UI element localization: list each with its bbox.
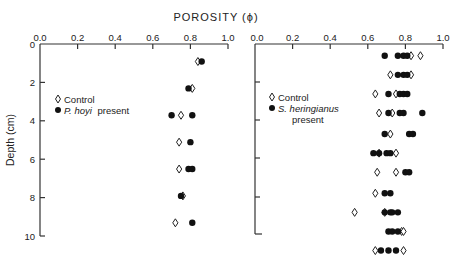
species-present-data-point (395, 53, 401, 59)
x-tick-label: 0.8 (184, 32, 197, 43)
figure-title: POROSITY (ϕ) (173, 11, 258, 23)
x-tick-label: 0.2 (286, 32, 299, 43)
species-present-data-point (189, 220, 195, 226)
filled-circle-icon (269, 105, 275, 111)
species-present-data-point (382, 190, 388, 196)
control-data-point (375, 168, 380, 176)
right-panel: 0.0 0.2 0.4 0.6 0.8 1.0 Control S. herin… (250, 32, 449, 255)
left-x-axis (40, 44, 228, 49)
species-present-data-point (400, 110, 406, 116)
control-data-point (177, 138, 182, 146)
species-present-data-point (393, 247, 399, 253)
left-panel: 0.0 0.2 0.4 0.6 0.8 1.0 0 2 4 6 8 10 Con… (24, 32, 234, 242)
left-x-tick-labels: 0.0 0.2 0.4 0.6 0.8 1.0 (33, 32, 234, 43)
right-legend: Control S. heringianus present (269, 92, 339, 125)
control-data-point (393, 149, 398, 157)
legend-present-species: S. heringianus (278, 103, 339, 114)
x-tick-label: 0.6 (146, 32, 159, 43)
species-present-data-point (189, 166, 195, 172)
species-present-data-point (404, 72, 410, 78)
x-tick-label: 0.0 (250, 32, 263, 43)
species-present-data-point (382, 209, 388, 215)
right-y-axis (255, 44, 262, 234)
left-legend: Control P. hoyi present (55, 94, 130, 116)
control-data-point (173, 219, 178, 227)
species-present-data-point (189, 112, 195, 118)
species-present-data-point (419, 110, 425, 116)
species-present-data-point (410, 131, 416, 137)
open-diamond-icon (56, 95, 61, 103)
control-data-point (373, 247, 378, 255)
legend-present-label: P. hoyi present (64, 105, 130, 116)
x-tick-label: 0.4 (324, 32, 337, 43)
right-x-tick-labels: 0.0 0.2 0.4 0.6 0.8 1.0 (250, 32, 449, 43)
open-diamond-icon (270, 93, 275, 101)
control-data-point (376, 109, 381, 117)
species-present-data-point (382, 53, 388, 59)
species-present-data-point (387, 150, 393, 156)
y-tick-label: 4 (30, 115, 35, 126)
control-data-point (177, 165, 182, 173)
control-data-point (388, 71, 393, 79)
x-tick-label: 0.2 (71, 32, 84, 43)
x-tick-label: 1.0 (221, 32, 234, 43)
control-data-point (352, 208, 357, 216)
species-present-data-point (406, 169, 412, 175)
species-present-data-point (378, 247, 384, 253)
species-present-data-point (395, 209, 401, 215)
species-present-data-point (382, 131, 388, 137)
species-present-data-point (389, 228, 395, 234)
control-data-point (388, 130, 393, 138)
porosity-figure: POROSITY (ϕ) Depth (cm) 0.0 0.2 0.4 0.6 … (0, 0, 456, 260)
species-present-data-point (370, 150, 376, 156)
species-present-data-point (185, 85, 191, 91)
species-present-data-point (404, 91, 410, 97)
species-present-data-point (385, 110, 391, 116)
y-tick-label: 10 (24, 231, 35, 242)
left-y-tick-labels: 0 2 4 6 8 10 (24, 39, 35, 242)
x-tick-label: 0.8 (399, 32, 412, 43)
legend-present-suffix: present (292, 114, 324, 125)
x-tick-label: 1.0 (436, 32, 449, 43)
y-tick-label: 0 (30, 39, 35, 50)
species-present-data-point (178, 193, 184, 199)
control-data-point (393, 168, 398, 176)
control-data-point (178, 111, 183, 119)
x-tick-label: 0.6 (361, 32, 374, 43)
left-y-axis (40, 44, 45, 236)
y-tick-label: 8 (30, 192, 35, 203)
filled-circle-icon (55, 107, 61, 113)
species-present-data-point (387, 190, 393, 196)
species-present-data-point (395, 72, 401, 78)
right-data-points (352, 52, 425, 255)
species-present-data-point (395, 228, 401, 234)
legend-control-label: Control (64, 94, 95, 105)
left-data-points (168, 58, 204, 227)
species-present-data-point (404, 53, 410, 59)
species-present-data-point (389, 209, 395, 215)
right-x-axis (255, 44, 443, 49)
legend-control-label: Control (278, 92, 309, 103)
y-axis-label: Depth (cm) (4, 114, 16, 166)
control-data-point (401, 247, 406, 255)
species-present-data-point (187, 139, 193, 145)
species-present-data-point (168, 112, 174, 118)
x-tick-label: 0.4 (109, 32, 122, 43)
y-tick-label: 6 (30, 154, 35, 165)
control-data-point (373, 189, 378, 197)
control-data-point (418, 52, 423, 60)
y-tick-label: 2 (30, 77, 35, 88)
species-present-data-point (376, 150, 382, 156)
species-present-data-point (198, 58, 204, 64)
x-tick-label: 0.0 (33, 32, 46, 43)
species-present-data-point (385, 91, 391, 97)
species-present-data-point (385, 247, 391, 253)
control-data-point (373, 90, 378, 98)
